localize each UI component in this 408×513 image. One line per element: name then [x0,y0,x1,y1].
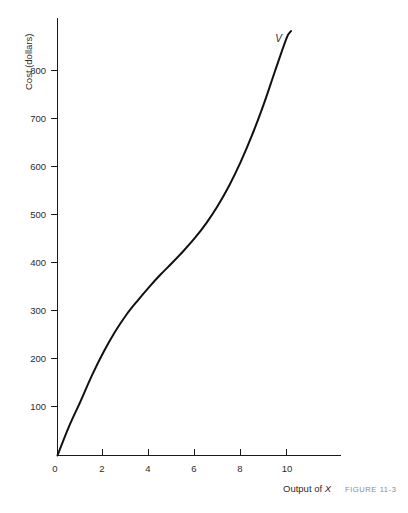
x-tick-label-10: 10 [282,463,293,474]
y-tick-label-200: 200 [30,353,46,364]
cost-curve-chart: 800 700 600 500 400 300 200 100 0 2 [0,0,408,513]
x-axis-ticks [103,449,287,456]
x-tick-label-8: 8 [237,463,242,474]
y-tick-label-100: 100 [30,401,46,412]
y-tick-label-600: 600 [30,161,46,172]
x-tick-label-6: 6 [191,463,196,474]
y-tick-label-400: 400 [30,257,46,268]
x-tick-label-4: 4 [145,463,150,474]
cost-curve-v-exact [58,31,292,455]
figure-11-3: 800 700 600 500 400 300 200 100 0 2 [0,0,408,513]
x-tick-label-0: 0 [52,463,57,474]
curve-label-v: V [275,33,283,44]
y-tick-label-700: 700 [30,113,46,124]
figure-page: 800 700 600 500 400 300 200 100 0 2 [0,0,408,513]
x-axis-title-variable: X [324,483,332,494]
x-axis-tick-labels: 0 2 4 6 8 10 [52,463,292,474]
y-axis-tick-labels: 800 700 600 500 400 300 200 100 [30,65,46,412]
x-tick-label-2: 2 [99,463,104,474]
y-tick-label-300: 300 [30,305,46,316]
figure-caption: FIGURE 11-3 [345,485,396,494]
x-axis-title: Output of X [283,483,332,494]
x-axis-title-prefix: Output of [283,483,325,494]
y-tick-label-500: 500 [30,209,46,220]
y-axis-title: Cost (dollars) [23,34,34,91]
y-axis-ticks [51,71,58,407]
